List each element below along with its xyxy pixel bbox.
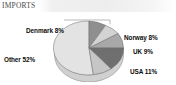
pie-label-other: Other 52% xyxy=(4,56,35,63)
pie-label-uk: UK 9% xyxy=(133,48,153,55)
pie-label-denmark: Denmark 8% xyxy=(26,27,64,34)
pie-label-norway: Norway 8% xyxy=(124,34,158,41)
page-title: IMPORTS xyxy=(2,1,35,10)
pie-label-usa: USA 11% xyxy=(130,68,157,75)
imports-pie-chart-figure: IMPORTS xyxy=(0,0,176,85)
chart-plot-area: Denmark 8% Norway 8% UK 9% USA 11% Germa… xyxy=(0,12,176,85)
